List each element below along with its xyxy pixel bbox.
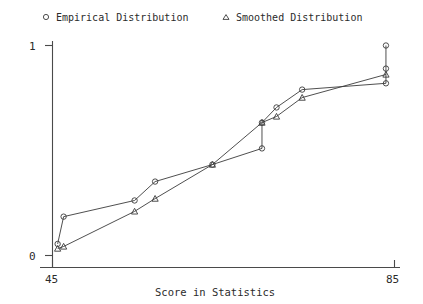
- x-tick-label-45: 45: [45, 273, 58, 286]
- chart-canvas: Empirical Distribution Smoothed Distribu…: [0, 0, 423, 304]
- legend-label-empirical: Empirical Distribution: [56, 12, 188, 23]
- x-axis-label: Score in Statistics: [155, 286, 275, 298]
- x-tick-label-85: 85: [386, 273, 399, 286]
- series-empirical: [55, 43, 389, 247]
- series-line: [58, 46, 386, 244]
- axes-frame: 1 0 45 85 Score in Statistics: [29, 40, 400, 298]
- legend-entry-empirical: Empirical Distribution: [43, 12, 188, 23]
- circle-marker-icon: [43, 14, 48, 19]
- plot-area: [55, 43, 390, 251]
- triangle-marker-icon: [223, 15, 229, 20]
- y-tick-label-1: 1: [29, 40, 36, 53]
- y-tick-label-0: 0: [29, 250, 36, 263]
- chart-legend: Empirical Distribution Smoothed Distribu…: [43, 12, 362, 23]
- legend-entry-smoothed: Smoothed Distribution: [223, 12, 362, 23]
- distribution-line-chart: Empirical Distribution Smoothed Distribu…: [0, 0, 423, 304]
- legend-label-smoothed: Smoothed Distribution: [236, 12, 362, 23]
